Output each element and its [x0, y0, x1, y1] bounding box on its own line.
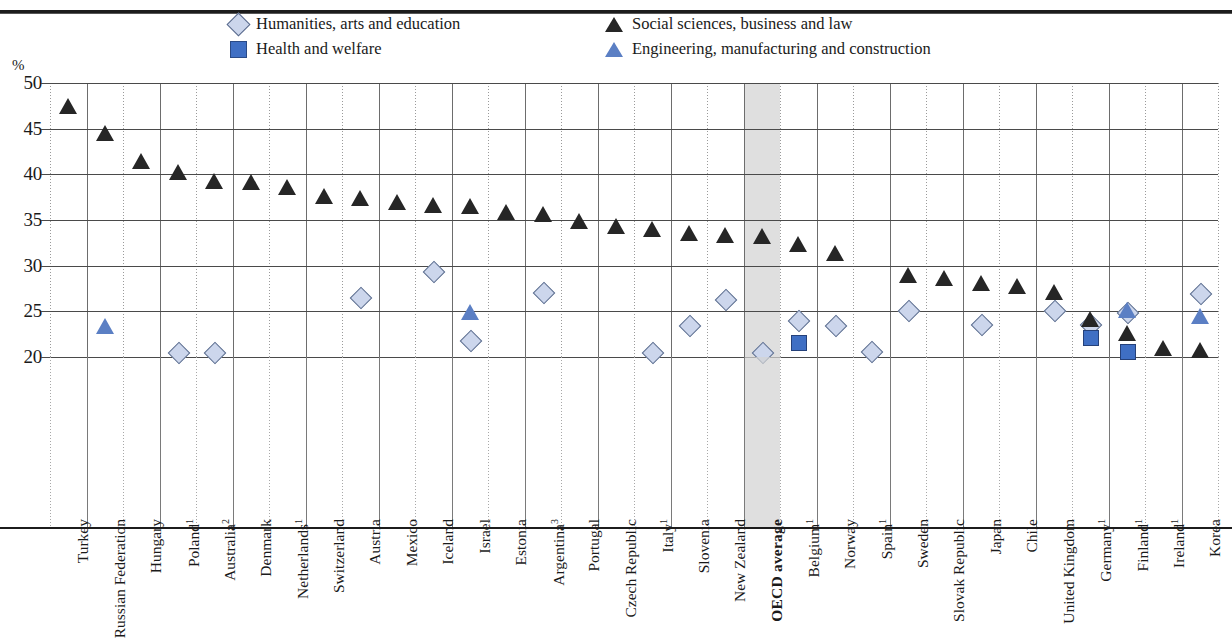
triangle-dark-icon	[605, 17, 623, 32]
data-point-triangle-dark	[59, 98, 77, 114]
label-gridline-vertical	[926, 357, 927, 529]
x-category-label-czechrepublic: Czech Republic	[622, 519, 640, 618]
data-point-triangle-dark	[789, 236, 807, 252]
data-point-triangle-dark	[1191, 342, 1209, 358]
data-point-diamond	[350, 286, 373, 309]
label-gridline-vertical	[963, 357, 964, 529]
legend-item-social-sciences: Social sciences, business and law	[605, 16, 852, 33]
data-point-triangle-dark	[242, 174, 260, 190]
chart-legend: Humanities, arts and education Health an…	[230, 14, 1230, 62]
label-gridline-vertical	[342, 357, 343, 529]
x-axis-category-labels: TurkeyRussian FederationHungaryPoland1Au…	[50, 357, 1218, 529]
data-point-triangle-dark	[534, 206, 552, 222]
square-icon	[230, 41, 247, 58]
plot-gridline-horizontal	[50, 266, 1218, 267]
data-point-diamond	[970, 314, 993, 337]
label-gridline-vertical	[671, 357, 672, 529]
data-point-triangle-dark	[461, 198, 479, 214]
label-gridline-vertical	[561, 357, 562, 529]
top-divider-rule	[0, 10, 1232, 13]
data-point-triangle-dark	[205, 173, 223, 189]
data-point-triangle-dark	[497, 204, 515, 220]
data-point-triangle-dark	[607, 218, 625, 234]
x-category-label-japan: Japan	[987, 519, 1005, 554]
data-point-triangle-dark	[96, 125, 114, 141]
x-category-label-netherlands: Netherlands1	[293, 519, 312, 599]
x-category-label-slovakrepublic: Slovak Republic	[950, 519, 968, 622]
label-gridline-vertical	[1182, 357, 1183, 529]
data-point-triangle-dark	[1118, 325, 1136, 341]
data-point-triangle-dark	[1008, 278, 1026, 294]
x-category-label-chile: Chile	[1023, 519, 1041, 553]
data-point-triangle-dark	[424, 197, 442, 213]
data-point-diamond	[897, 299, 920, 322]
data-point-triangle-dark	[935, 270, 953, 286]
y-tick-label-45: 45	[8, 118, 42, 140]
data-point-diamond	[423, 261, 446, 284]
data-point-triangle-dark	[680, 225, 698, 241]
bottom-divider-rule	[0, 527, 1232, 529]
data-point-triangle-blue	[461, 304, 479, 320]
data-point-triangle-dark	[643, 221, 661, 237]
y-tick-label-25: 25	[8, 300, 42, 322]
y-axis-tick	[41, 174, 50, 175]
data-point-triangle-dark	[1045, 284, 1063, 300]
data-point-triangle-dark	[899, 267, 917, 283]
label-gridline-vertical	[452, 357, 453, 529]
data-point-triangle-dark	[753, 228, 771, 244]
x-category-label-italy: Italy1	[658, 519, 677, 552]
legend-item-health: Health and welfare	[230, 41, 382, 58]
data-point-square	[791, 335, 807, 351]
oecd-average-highlight-band-labels	[744, 357, 781, 529]
data-point-triangle-dark	[570, 213, 588, 229]
triangle-blue-icon	[605, 42, 623, 57]
label-gridline-vertical	[50, 357, 51, 529]
x-category-label-korea: Korea	[1206, 519, 1224, 557]
label-gridline-vertical	[306, 357, 307, 529]
y-tick-label-20: 20	[8, 346, 42, 368]
data-point-square	[1083, 330, 1099, 346]
label-gridline-vertical	[707, 357, 708, 529]
label-gridline-vertical	[123, 357, 124, 529]
x-category-label-spain: Spain1	[877, 519, 896, 559]
legend-label-social-sciences: Social sciences, business and law	[632, 16, 852, 33]
plot-gridline-horizontal	[50, 83, 1218, 84]
legend-label-humanities: Humanities, arts and education	[256, 16, 460, 33]
data-point-triangle-dark	[351, 190, 369, 206]
y-tick-label-40: 40	[8, 163, 42, 185]
x-category-label-iceland: Iceland	[439, 519, 457, 565]
data-point-triangle-dark	[972, 275, 990, 291]
label-gridline-vertical	[379, 357, 380, 529]
y-tick-label-50: 50	[8, 72, 42, 94]
x-category-label-russianfederation: Russian Federation	[111, 519, 129, 638]
label-gridline-vertical	[87, 357, 88, 529]
y-axis-tick	[41, 266, 50, 267]
label-gridline-vertical	[1109, 357, 1110, 529]
plot-gridline-horizontal	[50, 129, 1218, 130]
legend-item-engineering: Engineering, manufacturing and construct…	[605, 41, 931, 58]
label-gridline-vertical	[1218, 357, 1219, 529]
plot-gridline-horizontal	[50, 311, 1218, 312]
plot-gridline-horizontal	[50, 174, 1218, 175]
x-category-label-argentina: Argentina3	[549, 519, 568, 586]
label-gridline-vertical	[160, 357, 161, 529]
x-category-label-israel: Israel	[476, 519, 494, 553]
label-gridline-vertical	[525, 357, 526, 529]
label-gridline-vertical	[196, 357, 197, 529]
data-point-triangle-dark	[132, 153, 150, 169]
data-point-triangle-blue	[96, 318, 114, 334]
y-axis-tick	[41, 220, 50, 221]
data-point-diamond	[824, 315, 847, 338]
plot-area	[50, 83, 1218, 357]
y-axis-tick	[41, 83, 50, 84]
data-point-diamond	[1043, 300, 1066, 323]
data-point-diamond	[1189, 283, 1212, 306]
label-gridline-vertical	[415, 357, 416, 529]
label-gridline-vertical	[817, 357, 818, 529]
data-point-triangle-dark	[278, 179, 296, 195]
label-gridline-vertical	[999, 357, 1000, 529]
x-category-label-switzerland: Switzerland	[330, 519, 348, 593]
data-point-diamond	[459, 329, 482, 352]
y-tick-label-35: 35	[8, 209, 42, 231]
